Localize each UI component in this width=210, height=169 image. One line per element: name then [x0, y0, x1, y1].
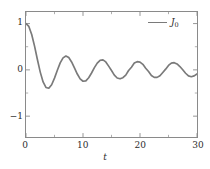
- y-tick-1: 0: [0, 65, 23, 75]
- series-line-j0: [26, 24, 197, 89]
- x-tick-label-2: 20: [128, 141, 152, 150]
- y-tick-label: 1: [3, 18, 23, 27]
- x-axis-title-text: t: [103, 152, 107, 162]
- legend-subscript: 0: [175, 21, 179, 29]
- major-ticks-group: [26, 12, 197, 137]
- plot-area: [25, 11, 198, 138]
- x-tick-label-1: 10: [71, 141, 95, 150]
- legend-label-j0: J0: [171, 17, 179, 27]
- legend-line-sample: [148, 22, 167, 23]
- y-tick-label: 0: [3, 65, 23, 74]
- y-tick-2: −1: [0, 112, 23, 122]
- x-tick-label-3: 30: [186, 141, 210, 150]
- chart-legend: J0: [148, 14, 194, 30]
- bessel-curve-svg: [26, 12, 197, 137]
- y-tick-label: −1: [3, 112, 23, 121]
- minor-ticks-group: [26, 12, 197, 137]
- y-tick-0: 1: [0, 18, 23, 28]
- x-axis-title: t: [0, 152, 210, 162]
- chart-figure: 10−1 0102030 t J0: [0, 0, 210, 169]
- x-tick-label-0: 0: [13, 141, 37, 150]
